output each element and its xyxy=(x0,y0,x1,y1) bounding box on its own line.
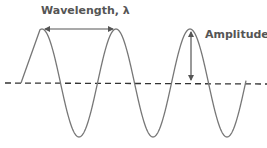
amplitude-label: Amplitude xyxy=(205,28,267,41)
wave-diagram: Wavelength, λ Amplitude xyxy=(0,0,267,148)
wave-curve xyxy=(21,29,246,137)
equilibrium-line xyxy=(5,83,267,84)
wavelength-label: Wavelength, λ xyxy=(41,4,130,17)
